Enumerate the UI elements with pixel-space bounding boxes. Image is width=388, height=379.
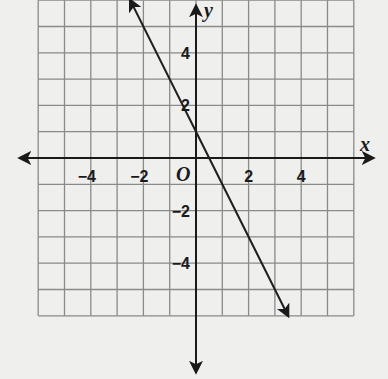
- y-axis-title: y: [202, 0, 213, 22]
- coordinate-plane: −4−224 42−2−4 O x y: [0, 0, 388, 379]
- x-tick-label: 2: [244, 168, 253, 185]
- x-tick-label: −2: [130, 168, 148, 185]
- y-tick-label: 4: [181, 45, 190, 62]
- x-tick-label: −4: [78, 168, 96, 185]
- x-tick-labels: −4−224: [78, 168, 306, 185]
- x-axis-title: x: [359, 133, 370, 155]
- y-tick-label: −2: [172, 203, 190, 220]
- x-tick-label: 4: [297, 168, 306, 185]
- origin-label: O: [176, 163, 190, 185]
- y-tick-label: −4: [172, 255, 190, 272]
